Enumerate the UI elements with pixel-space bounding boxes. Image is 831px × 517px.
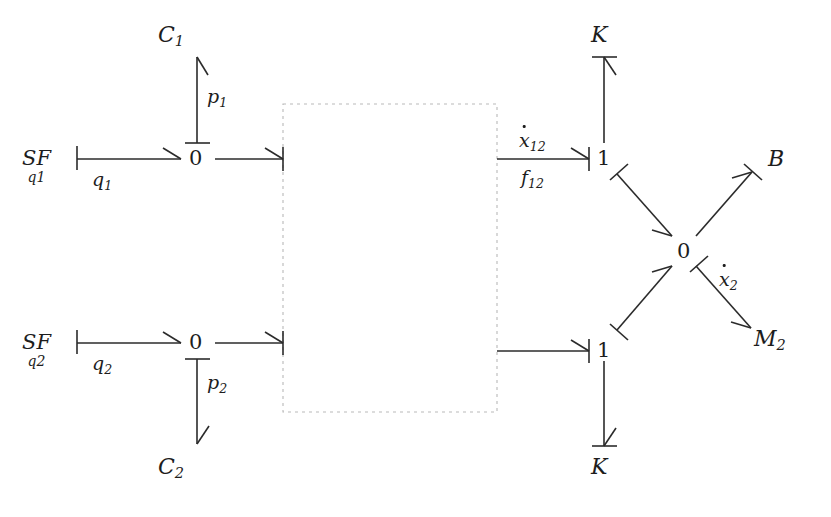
bond-graph-canvas: SF q1 SF q2 0 0 1 0 1 C1 C2 K K B M2 q1 … [0,0,831,517]
element-c2: C2 [158,456,184,481]
bond-label-xdot2-subscript: 2 [730,278,738,293]
bond-label-p1-subscript: 1 [219,95,227,110]
bond-label-q1: q1 [92,170,112,192]
half-arrow-box-to-one-bottom [571,340,589,351]
half-arrow-one-bottom-to-k [604,428,616,446]
source-sf2: SF q2 [22,332,51,368]
element-m2-subscript: 2 [777,337,786,353]
source-sf2-subscript: q2 [22,354,51,368]
element-c2-label: C [158,454,175,479]
causal-bar-one-bottom-to-zero-center [610,324,628,340]
half-arrow-sf1-to-zero1 [163,148,181,159]
bond-zero-center-to-b [696,172,752,236]
junction-zero-top-left: 0 [189,148,202,169]
element-k-bottom: K [591,456,607,478]
half-arrow-box-to-one-top [571,148,589,159]
bond-label-xdot2: x2 [719,270,738,292]
bond-label-p2-text: p [207,371,219,393]
element-k-bottom-label: K [591,454,607,479]
element-m2-label: M [754,326,777,351]
bond-one-top-to-zero-center [617,174,672,236]
element-k-top: K [591,24,607,46]
bond-one-bottom-to-zero-center [617,266,672,330]
bond-label-q2-text: q [92,352,104,374]
junction-one-bottom-right: 1 [597,340,610,361]
bond-label-p2-subscript: 2 [219,381,227,396]
source-sf1: SF q1 [22,148,51,184]
half-arrow-one-top-to-k [604,57,616,75]
bond-label-q1-subscript: 1 [104,178,112,193]
bond-label-xdot12: x12 [519,131,546,153]
half-arrow-zero1-to-box [265,148,283,159]
junction-zero-center-right: 0 [677,241,690,262]
bond-label-f12-text: f [521,166,528,188]
bond-label-xdot12-subscript: 12 [530,139,546,154]
half-arrow-zero2-to-box [265,332,283,343]
element-b-damper: B [768,148,784,170]
bond-graph-svg [0,0,831,517]
element-b-damper-label: B [768,146,784,171]
element-m2-mass: M2 [754,328,786,353]
source-sf1-subscript: q1 [22,170,51,184]
element-k-top-label: K [591,22,607,47]
junction-one-top-right: 1 [597,148,610,169]
element-c1-subscript: 1 [175,33,184,49]
bond-label-p1-text: p [207,85,219,107]
half-arrow-sf2-to-zero2 [163,332,181,343]
source-sf1-label: SF [22,148,51,169]
bond-label-q2-subscript: 2 [104,362,112,377]
bond-label-f12-subscript: 12 [528,176,544,191]
bond-label-xdot2-text: x [719,270,730,289]
bond-label-p1: p1 [207,87,227,109]
source-sf2-label: SF [22,332,51,353]
half-arrow-zero1-to-c1 [197,57,208,75]
causal-bar-one-top-to-zero-center [610,164,628,180]
bond-label-q2: q2 [92,354,112,376]
transformer-region-box [283,104,497,412]
element-c1-label: C [158,22,175,47]
element-c1: C1 [158,24,184,49]
element-c2-subscript: 2 [175,465,184,481]
half-arrow-zero2-to-c2 [197,426,209,444]
bond-label-xdot12-text: x [519,131,530,150]
bond-label-f12: f12 [521,168,544,190]
bond-label-p2: p2 [207,373,227,395]
bond-label-q1-text: q [92,168,104,190]
junction-zero-bottom-left: 0 [189,332,202,353]
